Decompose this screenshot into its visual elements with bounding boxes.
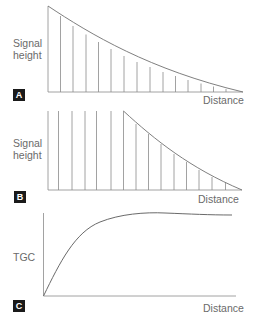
panel-a-y-label-line2: height [13, 49, 42, 61]
panel-b-badge: B [14, 191, 26, 203]
panel-a-badge: A [13, 89, 25, 101]
panel-c-y-label: TGC [13, 251, 35, 263]
panel-c-x-label: Distance [203, 302, 244, 314]
panel-a-graph [48, 6, 243, 92]
panel-b-x-label: Distance [198, 193, 239, 205]
panel-a-x-label: Distance [203, 94, 244, 106]
panel-b-y-label-line2: height [13, 149, 42, 161]
panel-a-y-label-line1: Signal [13, 37, 42, 49]
panel-b-y-label-line1: Signal [13, 137, 42, 149]
panel-a-decay-curve [48, 6, 243, 92]
panel-b-y-label: Signal height [13, 137, 42, 161]
panel-c-badge: C [13, 300, 25, 312]
panel-b-decay-curve [124, 111, 243, 190]
panel-c-graph [44, 213, 237, 296]
panel-a-y-label: Signal height [13, 37, 42, 61]
panel-b-graph [48, 111, 242, 190]
panel-c-tgc-curve [44, 213, 233, 296]
